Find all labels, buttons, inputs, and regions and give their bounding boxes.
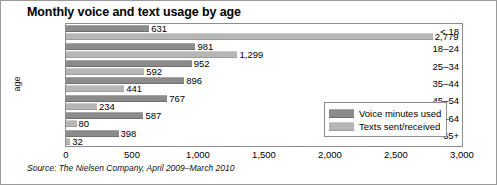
y-axis-title: age xyxy=(12,64,22,104)
bar-voice xyxy=(66,95,167,102)
bar-text xyxy=(66,51,237,58)
chart-legend: Voice minutes usedTexts sent/received xyxy=(324,102,447,137)
x-axis-tick-label: 2,000 xyxy=(318,149,342,160)
bar-text xyxy=(66,85,124,92)
legend-label: Texts sent/received xyxy=(359,121,440,132)
chart-title: Monthly voice and text usage by age xyxy=(27,5,241,19)
bar-value-voice: 767 xyxy=(169,94,185,103)
bar-value-text: 592 xyxy=(146,67,162,76)
bar-voice xyxy=(66,77,184,84)
bar-text xyxy=(66,33,433,40)
x-axis-tick-label: 500 xyxy=(124,149,140,160)
bar-voice xyxy=(66,43,195,50)
chart-canvas: Monthly voice and text usage by age age … xyxy=(1,1,497,185)
bar-value-text: 441 xyxy=(126,84,142,93)
bar-value-voice: 587 xyxy=(145,111,161,120)
x-axis-tick-label: 1,500 xyxy=(252,149,276,160)
category-label: < 18 xyxy=(399,26,459,37)
x-axis-tick-label: 2,500 xyxy=(384,149,408,160)
x-axis-tick-label: 0 xyxy=(63,149,68,160)
bar-text xyxy=(66,103,97,110)
bar-voice xyxy=(66,112,143,119)
source-note: Source: The Nielsen Company, April 2009–… xyxy=(27,163,234,173)
bar-value-text: 1,299 xyxy=(239,50,263,59)
x-axis-tick-label: 3,000 xyxy=(450,149,474,160)
bar-voice xyxy=(66,60,192,67)
legend-swatch-text xyxy=(329,122,354,131)
bar-text xyxy=(66,68,144,75)
legend-item: Voice minutes used xyxy=(329,107,441,119)
bar-value-text: 32 xyxy=(72,137,83,146)
bar-text xyxy=(66,120,77,127)
bar-value-voice: 896 xyxy=(186,76,202,85)
x-axis-labels: 05001,0001,5002,0002,5003,000 xyxy=(1,149,497,163)
bar-value-voice: 631 xyxy=(151,24,167,33)
legend-item: Texts sent/received xyxy=(329,120,441,132)
bar-value-voice: 398 xyxy=(121,129,137,138)
x-axis-tick-label: 1,000 xyxy=(186,149,210,160)
bar-text xyxy=(66,138,70,145)
category-label: 25–34 xyxy=(399,61,459,72)
chart-figure: Monthly voice and text usage by age age … xyxy=(0,0,497,185)
category-label: 35–44 xyxy=(399,78,459,89)
bar-value-text: 80 xyxy=(79,119,90,128)
legend-label: Voice minutes used xyxy=(359,108,441,119)
category-label: 18–24 xyxy=(399,43,459,54)
bar-value-voice: 981 xyxy=(197,42,213,51)
legend-swatch-voice xyxy=(329,109,354,118)
bar-value-voice: 952 xyxy=(194,59,210,68)
bar-value-text: 234 xyxy=(99,102,115,111)
bar-voice xyxy=(66,25,149,32)
